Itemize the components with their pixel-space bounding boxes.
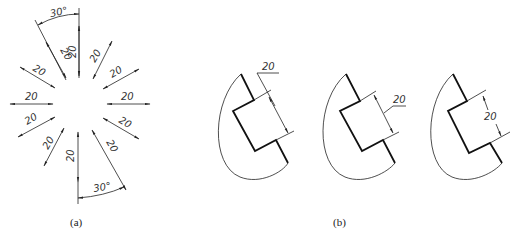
figure-b: 20 20 20 (b) xyxy=(218,61,510,229)
dimension-label: 20 xyxy=(87,47,103,64)
caption-a: (a) xyxy=(70,216,83,229)
caption-b: (b) xyxy=(333,216,346,229)
dimension-label: 20 xyxy=(40,134,56,151)
dimension-label: 20 xyxy=(484,111,497,122)
figure-a: 30° 20 20 20 20 20 20 20 xyxy=(10,5,150,229)
dimension-label: 20 xyxy=(108,64,125,80)
dimension-label: 20 xyxy=(23,111,40,127)
dimension-label: 20 xyxy=(104,138,120,155)
dimension-label: 20 xyxy=(262,61,275,72)
dimension-label: 20 xyxy=(31,62,48,78)
dimension-label: 20 xyxy=(65,149,76,162)
view-leader-above: 20 xyxy=(218,61,294,179)
angle-label-bottom: 30° xyxy=(92,180,111,194)
view-leader-side: 20 xyxy=(323,74,406,179)
dimension-label: 20 xyxy=(121,91,134,102)
view-inline: 20 xyxy=(431,74,510,179)
angle-dimension-bottom: 30° xyxy=(78,180,124,204)
angle-label-top: 30° xyxy=(49,5,69,19)
drawing-canvas: 30° 20 20 20 20 20 20 20 xyxy=(0,0,516,238)
dimension-label: 20 xyxy=(393,94,406,105)
radial-dimensions: 20 20 20 20 20 20 20 20 20 xyxy=(10,26,150,190)
dimension-label: 20 xyxy=(25,91,38,102)
